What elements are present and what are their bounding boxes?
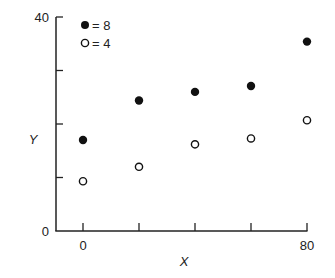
data-point-open	[135, 163, 142, 170]
x-tick-label-max: 80	[300, 238, 314, 253]
y-tick-label-min: 0	[42, 224, 49, 239]
y-axis-ticks	[56, 17, 63, 178]
legend-open-circle-icon	[81, 39, 88, 46]
data-point-filled	[303, 37, 311, 45]
x-axis-ticks	[83, 223, 307, 231]
data-points	[79, 37, 311, 184]
legend-label-filled: = 8	[92, 18, 110, 33]
data-point-filled	[135, 96, 143, 104]
scatter-chart: 40 0 0 80 Y X = 8 = 4	[0, 0, 335, 278]
legend: = 8 = 4	[81, 18, 110, 51]
data-point-open	[79, 178, 86, 185]
data-point-open	[191, 141, 198, 148]
data-point-filled	[247, 82, 255, 90]
x-tick-label-min: 0	[79, 238, 86, 253]
legend-label-open: = 4	[92, 36, 110, 51]
data-point-open	[303, 117, 310, 124]
data-point-filled	[191, 88, 199, 96]
data-point-open	[247, 135, 254, 142]
data-point-filled	[79, 136, 87, 144]
x-axis-title: X	[179, 254, 190, 269]
y-axis-title: Y	[29, 132, 39, 147]
y-tick-label-max: 40	[35, 10, 49, 25]
legend-filled-circle-icon	[81, 21, 89, 29]
